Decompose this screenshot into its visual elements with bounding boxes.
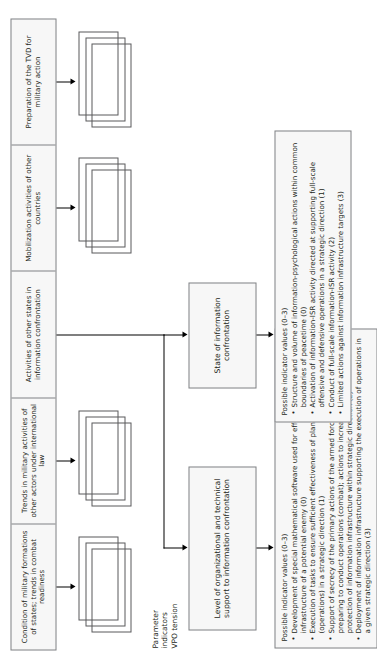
stacked-documents-group-1	[78, 536, 132, 632]
stacked-documents-group-4	[78, 31, 132, 127]
panel-bullet-item: Activation of information-ISR activity d…	[308, 137, 326, 407]
caption-line-2: indicators	[159, 562, 168, 648]
diagram-caption: Parameter indicators VPO tension	[150, 562, 178, 648]
state-box-label: State of information confrontation	[213, 287, 231, 383]
factor-label: Condition of military formations of stat…	[20, 527, 46, 646]
arrow-head-down	[70, 458, 75, 464]
connector-line	[163, 547, 184, 548]
stacked-documents-group-2	[78, 410, 132, 506]
state-box-state-of-information-confrontation[interactable]: State of information confrontation	[188, 282, 256, 388]
panel-title: Possible indicator values (0–3)	[280, 137, 289, 415]
stacked-documents-group-3	[78, 157, 132, 253]
caption-line-1: Parameter	[150, 562, 159, 648]
arrow-head-down	[182, 332, 187, 338]
stacked-rect-layer-1	[91, 548, 131, 632]
stacked-rect-layer-1	[91, 43, 131, 127]
arrow-head-down	[70, 584, 75, 590]
panel-bullet-item: Conduct of full-scale information-ISR ac…	[327, 137, 336, 407]
connector-line	[163, 334, 184, 335]
connector-line	[56, 334, 164, 335]
factor-label: Mobilization activities of other countri…	[24, 148, 41, 267]
connector-bus	[163, 334, 164, 548]
factor-box-mobilization-activities[interactable]: Mobilization activities of other countri…	[11, 144, 55, 270]
indicator-panel-information-confrontation[interactable]: Possible indicator values (0–3) Structur…	[274, 130, 351, 422]
panel-bullet-item: Structure and volume of information-psyc…	[290, 137, 308, 407]
factor-label: Trends in military activities of other a…	[20, 401, 46, 520]
panel-bullet-item: Deployment of information infrastructure…	[354, 335, 372, 633]
caption-line-3: VPO tension	[169, 562, 178, 648]
state-box-label: Level of organizational and technical su…	[213, 471, 231, 625]
factor-box-preparation-of-the-tvd[interactable]: Preparation of the TVD for military acti…	[11, 19, 55, 144]
factor-label: Preparation of the TVD for military acti…	[24, 22, 41, 141]
factor-box-condition-of-military-formations[interactable]: Condition of military formations of stat…	[11, 523, 55, 649]
factor-label: Activities of other states in informatio…	[24, 274, 41, 393]
arrow-head-down	[70, 205, 75, 211]
stacked-rect-layer-1	[91, 422, 131, 506]
state-box-level-of-organizational-support[interactable]: Level of organizational and technical su…	[188, 466, 256, 630]
arrow-head-down	[182, 545, 187, 551]
arrow-head-down	[268, 545, 273, 551]
factor-row: Condition of military formations of stat…	[10, 18, 56, 650]
arrow-head-down	[268, 332, 273, 338]
factor-box-trends-in-military-activities[interactable]: Trends in military activities of other a…	[11, 397, 55, 523]
arrow-head-down	[70, 79, 75, 85]
stacked-rect-layer-1	[91, 169, 131, 253]
panel-bullet-item: Limited actions against information infr…	[336, 137, 345, 407]
factor-box-activities-of-other-states[interactable]: Activities of other states in informatio…	[11, 270, 55, 396]
panel-bullet-list: Structure and volume of information-psyc…	[290, 137, 345, 415]
